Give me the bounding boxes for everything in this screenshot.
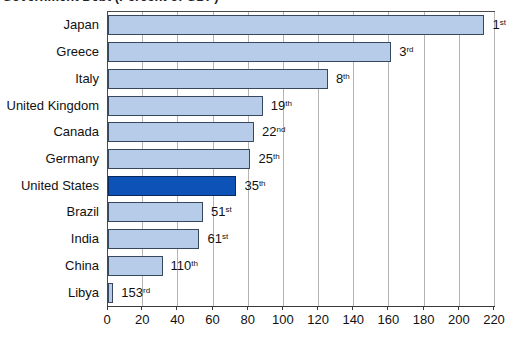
x-tick-label: 220 xyxy=(483,312,505,327)
x-tick-label: 80 xyxy=(240,312,254,327)
x-axis-tick xyxy=(493,306,494,310)
bar-row: Italy8th xyxy=(108,69,495,89)
bar-row: Japan1st xyxy=(108,15,495,35)
country-label: China xyxy=(65,256,99,276)
x-axis-tick xyxy=(387,306,388,310)
bar xyxy=(108,69,328,89)
x-tick-label: 200 xyxy=(448,312,470,327)
country-label: Japan xyxy=(64,15,99,35)
x-axis-tick xyxy=(212,306,213,310)
bar xyxy=(108,42,391,62)
x-tick-label: 60 xyxy=(205,312,219,327)
rank-label: 61st xyxy=(207,229,228,249)
bar xyxy=(108,229,199,249)
bar-row: Brazil51st xyxy=(108,202,495,222)
x-tick-label: 180 xyxy=(413,312,435,327)
x-tick-label: 160 xyxy=(378,312,400,327)
chart-title: Government Debt (Percent of GDP) xyxy=(2,0,302,4)
rank-label: 8th xyxy=(336,69,350,89)
x-tick-label: 140 xyxy=(342,312,364,327)
bar xyxy=(108,122,254,142)
rank-label: 25th xyxy=(258,149,279,169)
x-axis-tick xyxy=(352,306,353,310)
country-label: Germany xyxy=(46,149,99,169)
country-label: India xyxy=(71,229,99,249)
bar xyxy=(108,96,263,116)
bar-row: India61st xyxy=(108,229,495,249)
bar xyxy=(108,283,113,303)
rank-label: 1st xyxy=(492,15,505,35)
country-label: United Kingdom xyxy=(7,96,100,116)
x-axis: 020406080100120140160180200220 xyxy=(107,306,494,336)
rank-label: 51st xyxy=(211,202,232,222)
bar xyxy=(108,202,203,222)
bar xyxy=(108,15,484,35)
rank-label: 110th xyxy=(171,256,198,276)
x-axis-tick xyxy=(317,306,318,310)
bar xyxy=(108,149,250,169)
bar-row: Greece3rd xyxy=(108,42,495,62)
bar-row: United States35th xyxy=(108,176,495,196)
rank-label: 22nd xyxy=(262,122,285,142)
country-label: Libya xyxy=(68,283,99,303)
chart-title-clipped: Government Debt (Percent of GDP) xyxy=(2,0,302,5)
x-tick-label: 100 xyxy=(272,312,294,327)
x-axis-tick xyxy=(107,306,108,310)
country-label: Brazil xyxy=(66,202,99,222)
rank-label: 3rd xyxy=(399,42,413,62)
country-label: Italy xyxy=(75,69,99,89)
plot-area: Japan1stGreece3rdItaly8thUnited Kingdom1… xyxy=(107,11,495,307)
bar-row: Germany25th xyxy=(108,149,495,169)
x-axis-tick xyxy=(247,306,248,310)
country-label: Canada xyxy=(53,122,99,142)
x-tick-label: 20 xyxy=(135,312,149,327)
x-tick-label: 120 xyxy=(307,312,329,327)
bar-highlighted xyxy=(108,176,236,196)
bar-row: United Kingdom19th xyxy=(108,96,495,116)
government-debt-chart: Government Debt (Percent of GDP) Japan1s… xyxy=(0,0,517,338)
x-tick-label: 0 xyxy=(103,312,110,327)
country-label: Greece xyxy=(56,42,99,62)
rank-label: 35th xyxy=(244,176,265,196)
bar-row: Libya153rd xyxy=(108,283,495,303)
x-axis-tick xyxy=(423,306,424,310)
x-axis-tick xyxy=(176,306,177,310)
country-label: United States xyxy=(21,176,99,196)
x-axis-tick xyxy=(141,306,142,310)
x-tick-label: 40 xyxy=(170,312,184,327)
x-axis-tick xyxy=(282,306,283,310)
bar-row: China110th xyxy=(108,256,495,276)
rank-label: 153rd xyxy=(121,283,150,303)
bar-row: Canada22nd xyxy=(108,122,495,142)
rank-label: 19th xyxy=(271,96,292,116)
bar xyxy=(108,256,163,276)
x-axis-tick xyxy=(458,306,459,310)
